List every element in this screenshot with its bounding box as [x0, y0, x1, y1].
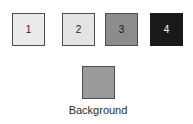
legend-panel: 1 2 3 4 Background	[0, 0, 193, 124]
class-swatch-4[interactable]: 4	[150, 13, 183, 46]
class-swatch-4-label: 4	[164, 24, 170, 34]
background-swatch[interactable]	[82, 66, 115, 99]
class-swatch-3-label: 3	[119, 24, 125, 34]
class-swatch-2[interactable]: 2	[62, 13, 95, 46]
class-swatch-3[interactable]: 3	[105, 13, 138, 46]
class-swatch-1[interactable]: 1	[12, 13, 45, 46]
background-caption: Background	[58, 105, 138, 116]
class-swatch-1-label: 1	[26, 24, 32, 34]
class-swatch-2-label: 2	[76, 24, 82, 34]
